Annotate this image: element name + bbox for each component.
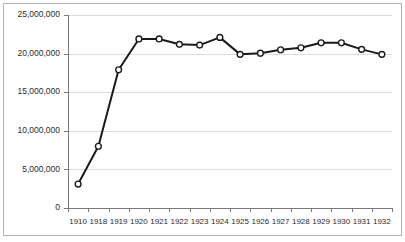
chart-plot-area: 05,000,00010,000,00015,000,00020,000,000… [0,0,405,242]
y-axis-tick-labels: 05,000,00010,000,00015,000,00020,000,000… [17,9,60,212]
data-point-marker [95,143,101,149]
data-point-marker [156,36,162,42]
data-point-marker [75,181,81,187]
x-axis-tick-labels: 1910191819191920192119221923192419251926… [69,217,391,226]
y-tick-label: 15,000,000 [17,86,60,96]
data-point-marker [116,67,122,73]
data-point-marker [237,51,243,57]
x-tick-label: 1910 [69,217,87,226]
x-tick-label: 1924 [211,217,229,226]
data-point-marker [298,45,304,51]
y-tick-label: 25,000,000 [17,9,60,19]
data-point-marker [176,41,182,47]
y-tick-label: 0 [55,202,60,212]
x-tick-label: 1925 [231,217,249,226]
data-point-marker [359,46,365,52]
x-tick-label: 1922 [170,217,188,226]
x-tick-label: 1921 [150,217,168,226]
data-point-marker [318,40,324,46]
x-tick-label: 1923 [191,217,209,226]
y-tick-label: 20,000,000 [17,48,60,58]
data-point-marker [197,42,203,48]
x-tick-label: 1918 [89,217,107,226]
data-point-marker [278,47,284,53]
chart-figure: 05,000,00010,000,00015,000,00020,000,000… [0,0,405,242]
data-point-marker [379,51,385,57]
x-tick-label: 1927 [272,217,290,226]
x-tick-label: 1931 [353,217,371,226]
data-series-group [78,37,382,184]
x-tick-label: 1928 [292,217,310,226]
gridlines-group [68,16,392,170]
x-tick-label: 1920 [130,217,148,226]
data-point-marker [338,40,344,46]
line-chart-svg: 05,000,00010,000,00015,000,00020,000,000… [0,0,405,242]
x-tick-label: 1932 [373,217,391,226]
x-tick-label: 1919 [110,217,128,226]
data-point-marker [257,50,263,56]
y-tick-label: 5,000,000 [22,164,60,174]
x-tick-label: 1930 [332,217,350,226]
data-markers-group [75,34,385,186]
x-tick-label: 1926 [251,217,269,226]
series-line [78,37,382,184]
y-tick-label: 10,000,000 [17,125,60,135]
x-tick-label: 1929 [312,217,330,226]
data-point-marker [136,36,142,42]
data-point-marker [217,34,223,40]
